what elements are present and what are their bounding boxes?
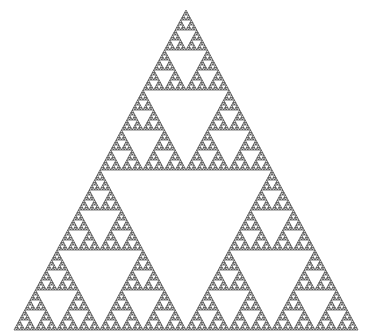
background xyxy=(0,0,372,336)
sierpinski-triangle xyxy=(0,0,372,336)
